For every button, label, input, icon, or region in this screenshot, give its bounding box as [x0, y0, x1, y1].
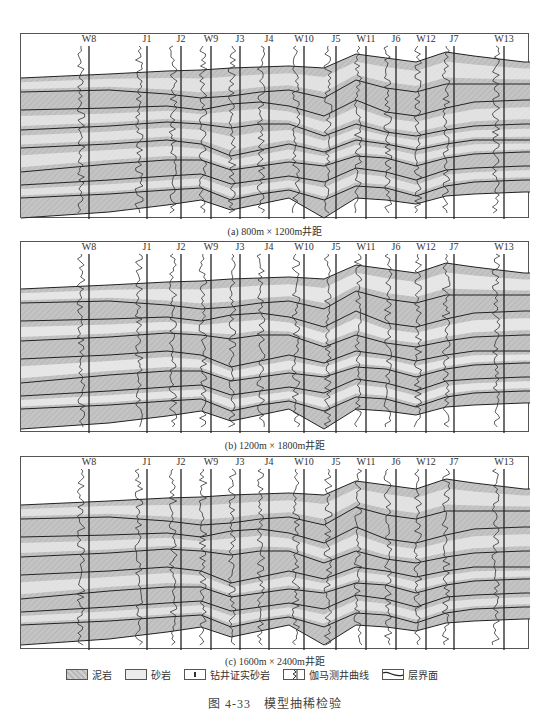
legend-sandstone-label: 砂岩 [151, 667, 171, 682]
legend-boundary: 层界面 [382, 667, 438, 682]
legend-drilled-sand: 钻井证实砂岩 [184, 667, 270, 682]
well-label-j6: J6 [392, 33, 401, 44]
well-label-w10: W10 [294, 241, 313, 252]
well-label-w9: W9 [204, 33, 218, 44]
well-label-j4: J4 [265, 456, 274, 467]
well-label-w12: W12 [416, 33, 435, 44]
panel-caption-b: (b) 1200m × 1800m井距 [0, 437, 550, 452]
well-label-w10: W10 [294, 456, 313, 467]
drilled-sand-icon [184, 669, 206, 680]
well-label-w8: W8 [82, 241, 96, 252]
well-label-j3: J3 [236, 456, 245, 467]
well-label-j2: J2 [177, 241, 186, 252]
well-label-j1: J1 [143, 456, 152, 467]
legend-boundary-label: 层界面 [408, 667, 438, 682]
well-label-j2: J2 [177, 33, 186, 44]
well-label-j4: J4 [265, 33, 274, 44]
well-label-j5: J5 [332, 33, 341, 44]
legend-mudstone: 泥岩 [66, 667, 112, 682]
legend-mudstone-label: 泥岩 [92, 667, 112, 682]
well-label-w8: W8 [82, 456, 96, 467]
cross-section-panel-b: W8J1J2W9J3J4W10J5W11J6W12J7W13 [20, 241, 529, 432]
well-label-j6: J6 [392, 456, 401, 467]
well-label-w8: W8 [82, 33, 96, 44]
figure-title: 图 4-33 模型抽稀检验 [0, 694, 550, 712]
well-label-w13: W13 [494, 456, 513, 467]
panel-caption-c: (c) 1600m × 2400m井距 [0, 653, 550, 668]
well-label-j7: J7 [450, 241, 459, 252]
well-label-w12: W12 [416, 241, 435, 252]
well-label-j5: J5 [332, 456, 341, 467]
sandstone-swatch-icon [125, 669, 147, 680]
cross-section-panel-c: W8J1J2W9J3J4W10J5W11J6W12J7W13 [20, 456, 529, 649]
well-label-j3: J3 [236, 33, 245, 44]
well-label-w13: W13 [494, 241, 513, 252]
legend-gamma-curve: 伽马测井曲线 [283, 667, 369, 682]
boundary-line-icon [382, 669, 404, 680]
well-label-j7: J7 [450, 33, 459, 44]
well-label-j2: J2 [177, 456, 186, 467]
well-label-w11: W11 [356, 33, 375, 44]
well-label-w11: W11 [356, 241, 375, 252]
well-label-j1: J1 [143, 33, 152, 44]
cross-section-panel-a: W8J1J2W9J3J4W10J5W11J6W12J7W13 [20, 33, 529, 218]
well-label-j4: J4 [265, 241, 274, 252]
legend-sandstone: 砂岩 [125, 667, 171, 682]
legend: 泥岩 砂岩 钻井证实砂岩 伽马测井曲线 层界面 [66, 667, 451, 682]
well-label-j6: J6 [392, 241, 401, 252]
mudstone-swatch-icon [66, 669, 88, 680]
well-label-w9: W9 [204, 456, 218, 467]
panel-caption-a: (a) 800m × 1200m井距 [0, 223, 550, 238]
well-label-j1: J1 [143, 241, 152, 252]
well-label-w9: W9 [204, 241, 218, 252]
well-label-j3: J3 [236, 241, 245, 252]
legend-drilled-sand-label: 钻井证实砂岩 [210, 667, 270, 682]
well-label-w10: W10 [294, 33, 313, 44]
well-label-j5: J5 [332, 241, 341, 252]
well-label-w11: W11 [356, 456, 375, 467]
well-label-j7: J7 [450, 456, 459, 467]
legend-gamma-curve-label: 伽马测井曲线 [309, 667, 369, 682]
gamma-curve-icon [283, 669, 305, 680]
well-label-w12: W12 [416, 456, 435, 467]
well-label-w13: W13 [494, 33, 513, 44]
